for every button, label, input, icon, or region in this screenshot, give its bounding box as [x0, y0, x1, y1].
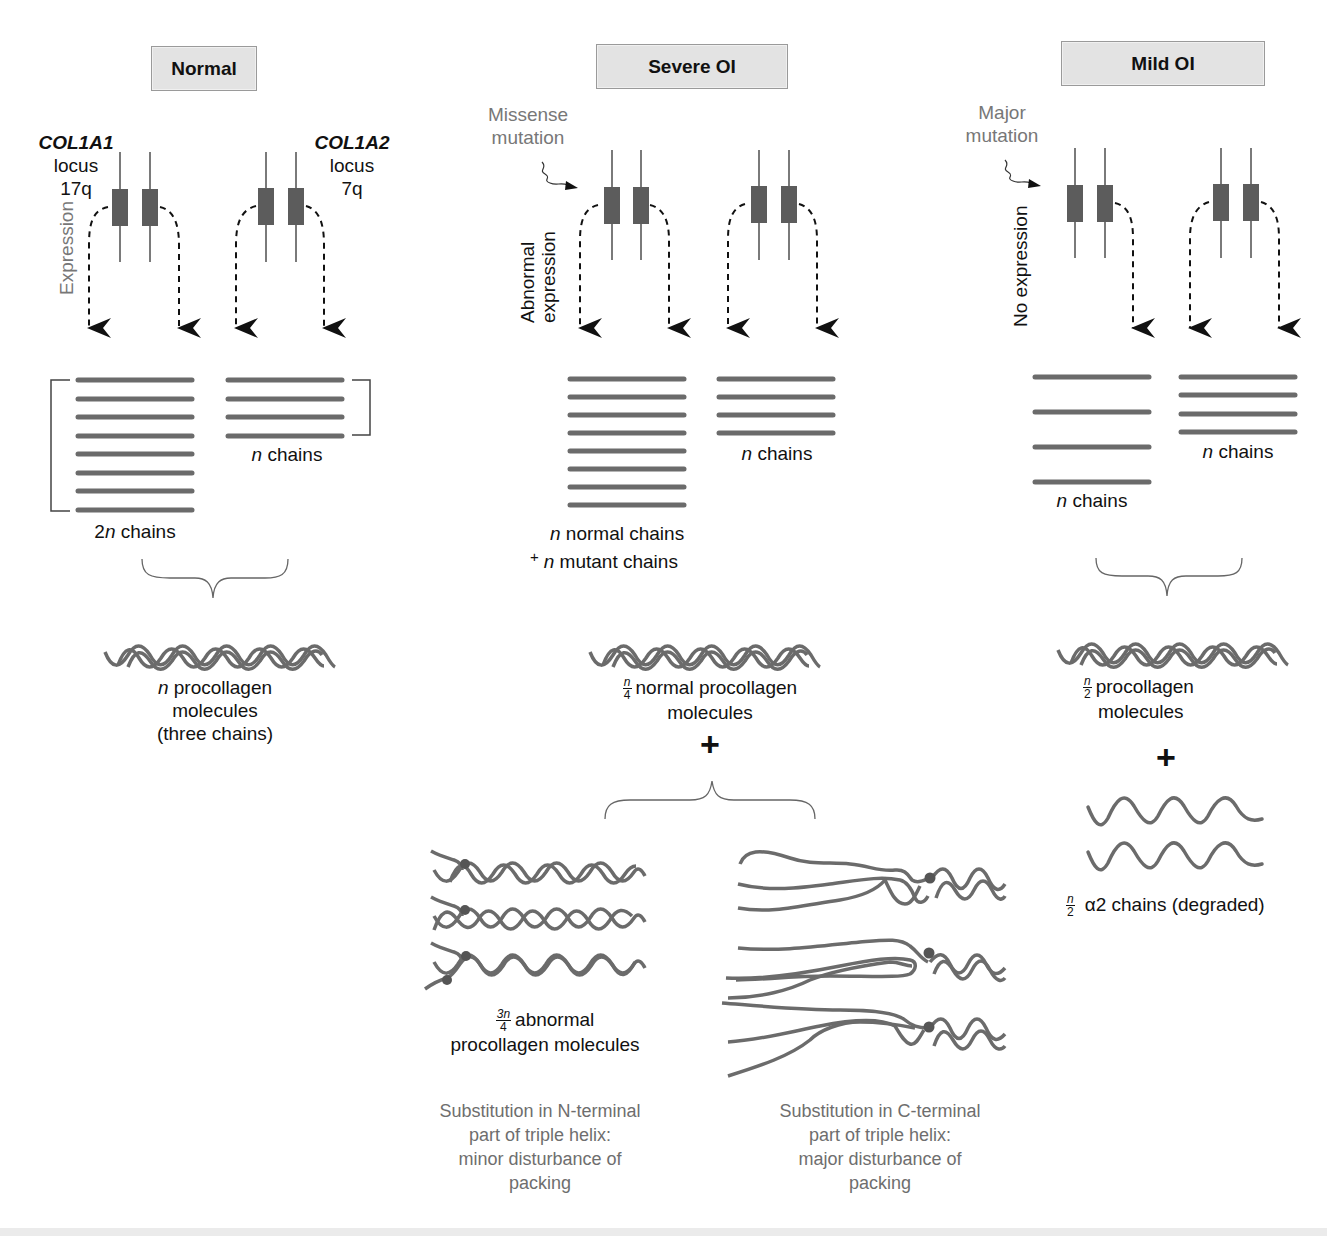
degraded-chain-wave-icon [1088, 798, 1262, 870]
mild-plus-sign: + [1156, 740, 1176, 774]
abnormal-result-label: 3n4abnormal procollagen molecules [430, 1008, 660, 1056]
n-terminal-note: Substitution in N-terminal part of tripl… [405, 1099, 675, 1195]
severe-normal-helix-icon [590, 646, 820, 669]
mild-result-label: n2procollagen molecules [1080, 675, 1260, 723]
normal-combine-brace [142, 559, 288, 598]
n-terminal-abnormal-helices-icon [425, 851, 645, 989]
severe-title: Severe OI [596, 44, 788, 89]
normal-chains-right [228, 380, 342, 436]
severe-split-brace [605, 781, 815, 819]
diagram-graphics [0, 0, 1327, 1236]
mild-genes [1005, 148, 1279, 328]
mild-procollagen-helix-icon [1058, 644, 1288, 667]
normal-chains-left [78, 380, 192, 510]
severe-plus-sign: + [700, 727, 720, 761]
normal-result-label: n procollagen molecules (three chains) [130, 676, 300, 745]
no-expression-label: No expression [1010, 206, 1032, 327]
mild-chains-right [1181, 377, 1295, 432]
abnormal-expression-label: Abnormal expression [517, 231, 559, 323]
severe-genes [542, 150, 817, 328]
normal-n-chains-label: n chains [222, 443, 352, 466]
severe-n-chains-label: n chains [712, 442, 842, 465]
mild-chains-left [1035, 377, 1149, 482]
gene-box-icon [112, 188, 304, 226]
col1a1-label: COL1A1 locus 17q [26, 131, 126, 200]
col1a2-label: COL1A2 locus 7q [302, 131, 402, 200]
mutation-squiggle-icon [542, 162, 568, 185]
mild-left-n-chains-label: n chains [1027, 489, 1157, 512]
c-terminal-note: Substitution in C-terminal part of tripl… [745, 1099, 1015, 1195]
mild-title: Mild OI [1061, 41, 1265, 86]
bottom-strip [0, 1228, 1327, 1236]
normal-2n-chains-label: 2n chains [70, 520, 200, 543]
missense-mutation-label: Missense mutation [478, 103, 578, 149]
mild-right-n-chains-label: n chains [1173, 440, 1303, 463]
degraded-chains-label: n2α2 chains (degraded) [1066, 893, 1306, 918]
severe-chains-left-label: n normal chains +n mutant chains [530, 522, 710, 573]
normal-title: Normal [151, 46, 257, 91]
expression-label: Expression [56, 201, 78, 295]
mild-combine-brace [1096, 558, 1242, 596]
severe-chains-left [570, 379, 684, 505]
c-terminal-disrupted-helices-icon [722, 852, 1005, 1076]
major-mutation-label: Major mutation [952, 101, 1052, 147]
severe-chains-right [719, 379, 833, 433]
severe-normal-result-label: n4normal procollagen molecules [600, 676, 820, 724]
normal-procollagen-helix-icon [105, 646, 335, 669]
